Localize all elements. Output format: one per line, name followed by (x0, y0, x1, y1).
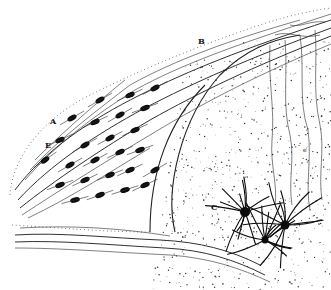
stipple-dot (310, 240, 311, 241)
stipple-dot (238, 180, 239, 181)
stipple-dot (203, 287, 204, 288)
stipple-dot (217, 160, 218, 161)
stipple-dot (286, 66, 287, 67)
stipple-dot (238, 142, 239, 143)
stipple-dot (288, 60, 290, 62)
stipple-dot (224, 61, 225, 62)
stipple-dot (273, 241, 274, 242)
stipple-dot (285, 203, 286, 204)
stipple-dot (290, 283, 291, 284)
stipple-dot (302, 54, 303, 55)
stipple-dot (276, 179, 277, 180)
stipple-dot (328, 230, 329, 231)
stipple-dot (328, 144, 329, 145)
stipple-dot (177, 113, 178, 114)
stipple-dot (233, 271, 234, 272)
stipple-dot (229, 152, 230, 153)
stipple-dot (190, 179, 191, 180)
stipple-dot (283, 91, 284, 92)
stipple-dot (324, 98, 326, 100)
stipple-dot (329, 146, 331, 148)
stipple-dot (280, 136, 281, 137)
stipple-dot (253, 268, 254, 269)
stipple-dot (258, 257, 259, 258)
stipple-dot (199, 151, 200, 152)
stipple-dot (238, 137, 239, 138)
stipple-dot (219, 110, 220, 111)
stipple-dot (310, 93, 311, 94)
stipple-dot (163, 249, 164, 250)
stipple-dot (233, 97, 234, 98)
stipple-dot (203, 71, 204, 72)
stipple-dot (256, 188, 257, 189)
stipple-dot (324, 208, 326, 210)
stipple-dot (286, 152, 287, 153)
stipple-dot (221, 182, 222, 183)
stipple-dot (189, 198, 190, 199)
stipple-dot (190, 137, 191, 138)
stipple-dot (225, 96, 226, 97)
stipple-dot (264, 132, 265, 133)
stipple-dot (312, 66, 313, 67)
stipple-dot (186, 140, 187, 141)
stipple-dot (324, 50, 326, 52)
stipple-dot (262, 110, 263, 111)
stipple-dot (178, 209, 179, 210)
stipple-dot (197, 84, 198, 85)
stipple-dot (287, 56, 288, 57)
stipple-dot (214, 224, 215, 225)
stipple-dot (271, 209, 272, 210)
stipple-dot (210, 272, 211, 273)
stipple-dot (168, 172, 170, 174)
stipple-dot (218, 219, 220, 221)
neuron-illustration: B A E C e (0, 0, 331, 290)
stipple-dot (258, 192, 259, 193)
stipple-dot (244, 123, 246, 125)
stipple-dot (277, 133, 278, 134)
stipple-dot (186, 77, 187, 78)
stipple-dot (253, 119, 255, 121)
stipple-dot (211, 223, 213, 225)
stipple-dot (311, 182, 312, 183)
stipple-dot (322, 226, 323, 227)
stipple-dot (305, 134, 306, 135)
stipple-dot (194, 150, 195, 151)
stipple-dot (286, 126, 287, 127)
stipple-dot (198, 86, 200, 88)
stipple-dot (327, 48, 329, 50)
stipple-dot (236, 173, 237, 174)
stipple-dot (267, 171, 268, 172)
stipple-dot (237, 167, 238, 168)
stipple-dot (277, 282, 278, 283)
stipple-dot (241, 194, 242, 195)
stipple-dot (192, 208, 193, 209)
neuron-process (88, 93, 112, 107)
stipple-dot (261, 133, 262, 134)
stipple-dot (278, 206, 279, 207)
stipple-dot (184, 164, 185, 165)
stipple-dot (243, 262, 244, 263)
stipple-dot (329, 169, 330, 170)
stipple-dot (208, 168, 209, 169)
stipple-dot (296, 179, 298, 181)
stipple-dot (180, 137, 182, 139)
stipple-dot (269, 258, 270, 259)
stipple-dot (267, 135, 269, 137)
stipple-dot (261, 147, 262, 148)
stipple-dot (269, 162, 270, 163)
stipple-dot (288, 163, 289, 164)
stipple-dot (296, 125, 297, 126)
stipple-dot (172, 231, 173, 232)
stipple-dot (261, 71, 262, 72)
stipple-dot (306, 182, 307, 183)
stipple-dot (241, 117, 242, 118)
stipple-dot (251, 133, 252, 134)
stipple-dot (198, 231, 199, 232)
stipple-dot (225, 117, 226, 118)
stipple-dot (205, 100, 206, 101)
stipple-dot (298, 60, 299, 61)
stipple-dot (277, 78, 278, 79)
stipple-dot (207, 139, 208, 140)
stipple-dot (215, 171, 216, 172)
stipple-dot (324, 41, 325, 42)
